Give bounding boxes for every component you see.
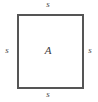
- side-label-right: s: [84, 46, 96, 55]
- side-label-top: s: [42, 0, 54, 9]
- side-label-bottom: s: [42, 90, 54, 99]
- side-label-left: s: [1, 46, 13, 55]
- area-label-center: A: [41, 45, 55, 56]
- geometry-figure-square: s s s s A: [0, 0, 98, 102]
